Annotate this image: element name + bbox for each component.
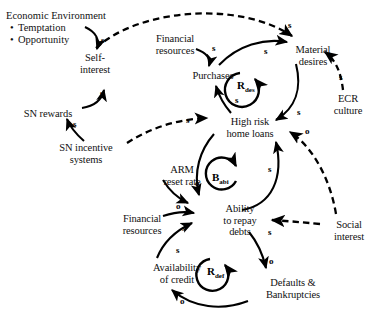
sign-sn-incentive-to-sn-rewards: s <box>73 120 77 129</box>
node-ecr-culture: ECR culture <box>324 93 372 116</box>
node-sn-rewards: SN rewards <box>12 108 84 120</box>
sign-arm-reset-to-ability: o <box>176 202 181 211</box>
link-sn-incentive-to-high-risk <box>127 118 207 143</box>
sign-availability-to-ability: s <box>176 246 180 255</box>
sign-material-to-high-risk: s <box>297 108 301 117</box>
sign-financial-resources-to-purchases: s <box>212 44 216 53</box>
sign-env-to-self-interest: s <box>101 36 105 45</box>
sign-high-risk-to-ability: o <box>195 179 200 188</box>
sign-sn-rewards-to-self-interest: s <box>100 89 104 98</box>
node-availability-of-credit: Availability of credit <box>141 262 213 285</box>
link-purchases-to-material-desires <box>219 41 287 65</box>
sign-purchases-to-material: s <box>264 47 268 56</box>
economic-environment-box: Economic Environment Temptation Opportun… <box>6 10 106 46</box>
node-high-risk-home-loans: High risk home loans <box>213 116 287 139</box>
node-financial-resources-top: Financial resources <box>143 33 207 56</box>
node-defaults-and-bankruptcies: Defaults & Bankruptcies <box>251 277 335 300</box>
node-sn-incentive-systems: SN incentive systems <box>48 142 124 165</box>
link-social-interest-to-high-risk <box>290 132 336 214</box>
economic-environment-bullet: Opportunity <box>18 34 106 46</box>
causal-loop-diagram: Economic Environment Temptation Opportun… <box>0 0 378 325</box>
node-arm-reset-rate: ARM reset rate <box>151 164 213 187</box>
loop-label-r-def: Rdef <box>207 266 224 282</box>
sign-ability-to-high-risk: s <box>268 165 272 174</box>
loop-label-r-des: Rdes <box>237 80 255 96</box>
sign-social-to-high-risk: o <box>305 127 310 136</box>
sign-financial-resources-to-ability: s <box>182 224 186 233</box>
loop-label-b-abi: Babi <box>212 172 229 188</box>
node-financial-resources-bottom: Financial resources <box>110 213 174 236</box>
economic-environment-title: Economic Environment <box>6 10 106 22</box>
sign-defaults-to-availability: o <box>180 297 185 306</box>
economic-environment-bullet: Temptation <box>18 22 106 34</box>
link-material-desires-to-high-risk <box>276 64 298 120</box>
sign-high-risk-to-purchases: s <box>235 96 239 105</box>
link-social-interest-to-ability <box>272 220 320 224</box>
sign-sn-incentive-to-high-risk: s <box>186 116 190 125</box>
sign-ability-to-defaults: o <box>269 257 274 266</box>
node-self-interest: Self- interest <box>60 52 130 75</box>
node-ability-to-repay-debts: Ability to repay debts <box>209 203 271 238</box>
node-social-interest: Social interest <box>323 219 375 242</box>
sign-social-to-ability: s <box>268 228 272 237</box>
link-ability-to-high-risk <box>242 142 278 210</box>
node-material-desires: Material desires <box>282 44 344 67</box>
economic-environment-bullets: Temptation Opportunity <box>6 22 106 46</box>
sign-self-interest-to-material: s <box>288 21 292 30</box>
sign-ecr-culture-to-material: s <box>339 73 343 82</box>
